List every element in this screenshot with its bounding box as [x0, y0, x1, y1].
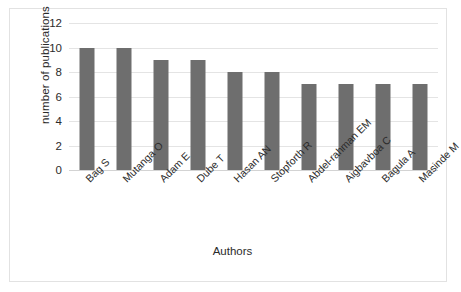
chart-container: number of publications 024681012 Bag SMu…	[9, 8, 447, 282]
y-axis-tick-label: 12	[49, 17, 62, 29]
bar-slot	[69, 23, 106, 170]
x-axis-title: Authors	[0, 245, 461, 257]
x-axis-tick-labels: Bag SMutanga OAdam EDube THasan ANStopfo…	[69, 170, 438, 250]
bar[interactable]	[191, 60, 206, 170]
y-axis-tick-label: 10	[49, 42, 62, 54]
y-axis-tick-label: 8	[56, 66, 62, 78]
bar-slot	[106, 23, 143, 170]
x-axis-title-text: Authors	[209, 245, 253, 257]
y-axis-tick-label: 2	[56, 140, 62, 152]
bar[interactable]	[228, 72, 243, 170]
y-axis-tick-label: 0	[56, 164, 62, 176]
bar-slot	[217, 23, 254, 170]
bar[interactable]	[80, 48, 95, 171]
bar-slot	[180, 23, 217, 170]
y-axis-tick-label: 6	[56, 91, 62, 103]
y-axis-tick-label: 4	[56, 115, 62, 127]
bar[interactable]	[117, 48, 132, 171]
